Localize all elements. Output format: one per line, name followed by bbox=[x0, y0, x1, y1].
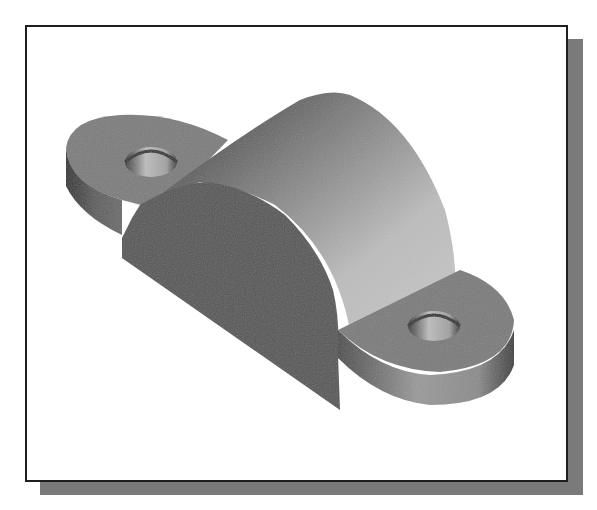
solid-model-illustration bbox=[0, 0, 597, 510]
